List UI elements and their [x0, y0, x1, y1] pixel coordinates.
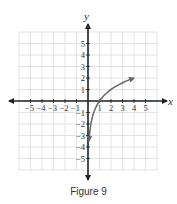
- svg-text:5: 5: [81, 39, 85, 49]
- y-axis-label: y: [83, 10, 89, 22]
- svg-text:−5: −5: [76, 154, 85, 164]
- svg-text:−2: −2: [59, 103, 68, 113]
- svg-text:5: 5: [143, 103, 147, 113]
- svg-text:−5: −5: [25, 103, 34, 113]
- svg-text:−4: −4: [36, 103, 46, 113]
- svg-text:1: 1: [81, 85, 85, 95]
- svg-text:4: 4: [132, 103, 137, 113]
- svg-text:2: 2: [109, 103, 113, 113]
- figure-caption: Figure 9: [0, 186, 177, 197]
- chart: −5−4−3−2−112345−5−4−3−2−112345 x y: [0, 0, 177, 204]
- svg-text:−1: −1: [76, 108, 85, 118]
- svg-text:−4: −4: [76, 142, 86, 152]
- axes: [9, 24, 167, 180]
- svg-text:−3: −3: [76, 131, 85, 141]
- svg-text:2: 2: [81, 73, 85, 83]
- svg-text:−2: −2: [76, 119, 85, 129]
- x-axis-label: x: [167, 95, 173, 107]
- svg-text:−3: −3: [48, 103, 57, 113]
- svg-text:3: 3: [120, 103, 124, 113]
- svg-text:3: 3: [81, 62, 85, 72]
